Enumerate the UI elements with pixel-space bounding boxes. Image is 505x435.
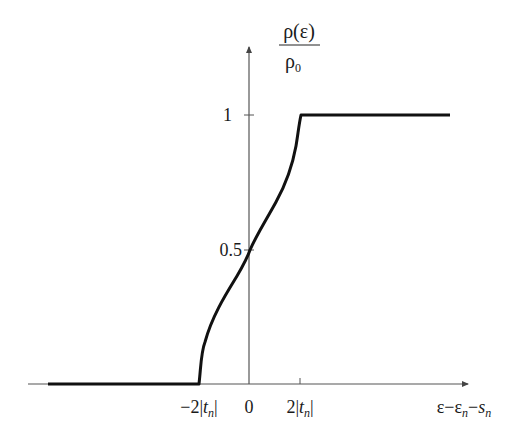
y-label-denominator: ρ0 [285,50,301,75]
y-tick-label-1: 1 [223,105,232,125]
chart: ρ(ε) ρ0 1 0.5 −2|tn| 0 2|tn| ε−εn−sn [0,0,505,435]
x-tick-label-zero: 0 [245,397,254,417]
y-label-numerator: ρ(ε) [283,20,315,43]
x-tick-label-minus: −2|tn| [180,397,217,420]
x-axis-label: ε−εn−sn [437,397,491,420]
x-tick-label-plus: 2|tn| [286,397,313,420]
y-tick-label-05: 0.5 [220,240,243,260]
